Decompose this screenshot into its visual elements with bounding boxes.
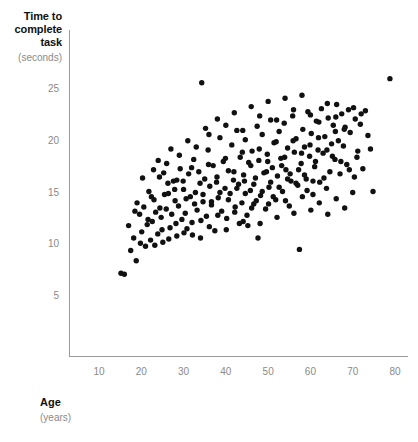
data-point	[240, 149, 245, 154]
data-point	[342, 127, 347, 132]
data-point	[143, 244, 148, 249]
data-point	[216, 195, 221, 200]
data-point	[287, 203, 292, 208]
data-point	[157, 205, 162, 210]
data-point	[192, 201, 197, 206]
data-point	[321, 175, 326, 180]
data-point	[254, 198, 259, 203]
data-point	[296, 167, 301, 172]
data-point	[339, 111, 344, 116]
data-point	[350, 190, 355, 195]
data-point	[224, 216, 229, 221]
data-point	[139, 229, 144, 234]
data-point	[270, 165, 275, 170]
data-point	[358, 111, 363, 116]
data-point	[313, 159, 318, 164]
data-point	[158, 215, 163, 220]
data-point	[334, 196, 339, 201]
data-point	[242, 178, 247, 183]
data-point	[214, 174, 219, 179]
data-point	[257, 221, 262, 226]
data-point	[317, 179, 322, 184]
data-point	[231, 177, 236, 182]
data-point	[166, 236, 171, 241]
data-point	[352, 174, 357, 179]
data-point	[179, 217, 184, 222]
data-point	[156, 158, 161, 163]
data-point	[273, 139, 278, 144]
data-point	[226, 197, 231, 202]
data-point	[181, 187, 186, 192]
data-point	[287, 171, 292, 176]
data-point	[159, 227, 164, 232]
data-point	[177, 166, 182, 171]
data-point	[297, 247, 302, 252]
data-point	[309, 131, 314, 136]
data-point	[137, 212, 142, 217]
data-point	[206, 162, 211, 167]
data-point	[217, 190, 222, 195]
data-point	[174, 177, 179, 182]
data-point	[177, 153, 182, 158]
data-point	[164, 161, 169, 166]
data-point	[128, 248, 133, 253]
data-point	[243, 191, 248, 196]
data-point	[347, 167, 352, 172]
data-point	[302, 144, 307, 149]
data-point	[189, 220, 194, 225]
data-point	[249, 148, 254, 153]
data-point	[264, 169, 269, 174]
data-point	[370, 189, 375, 194]
data-point	[140, 175, 145, 180]
data-point	[280, 189, 285, 194]
data-point	[232, 110, 237, 115]
data-point	[240, 128, 245, 133]
data-point	[355, 148, 360, 153]
data-point	[160, 239, 165, 244]
data-point	[237, 221, 242, 226]
data-point	[153, 209, 158, 214]
data-point	[210, 163, 215, 168]
data-point	[198, 235, 203, 240]
data-point	[194, 207, 199, 212]
data-point	[126, 223, 131, 228]
data-point	[324, 147, 329, 152]
data-point	[353, 116, 358, 121]
data-point	[260, 132, 265, 137]
data-point	[168, 146, 173, 151]
data-point	[322, 134, 327, 139]
data-point	[167, 225, 172, 230]
data-point	[219, 208, 224, 213]
data-point	[290, 113, 295, 118]
data-point	[134, 200, 139, 205]
data-point	[169, 212, 174, 217]
data-point	[198, 218, 203, 223]
data-point	[299, 93, 304, 98]
data-point	[310, 178, 315, 183]
data-point	[368, 146, 373, 151]
data-point	[387, 76, 392, 81]
data-point	[333, 114, 338, 119]
data-point	[215, 213, 220, 218]
data-point	[165, 180, 170, 185]
data-point	[166, 191, 171, 196]
data-point	[268, 179, 273, 184]
data-point	[204, 214, 209, 219]
data-point	[185, 138, 190, 143]
data-point	[299, 150, 304, 155]
data-point	[223, 123, 228, 128]
data-point	[329, 141, 334, 146]
data-point	[336, 138, 341, 143]
data-point	[205, 147, 210, 152]
data-point	[200, 192, 205, 197]
data-point	[183, 196, 188, 201]
data-point	[243, 137, 248, 142]
data-point	[238, 155, 243, 160]
data-point	[209, 199, 214, 204]
data-point	[285, 145, 290, 150]
data-point	[155, 231, 160, 236]
data-point	[239, 200, 244, 205]
data-point	[244, 213, 249, 218]
data-point	[276, 185, 281, 190]
data-point	[203, 126, 208, 131]
